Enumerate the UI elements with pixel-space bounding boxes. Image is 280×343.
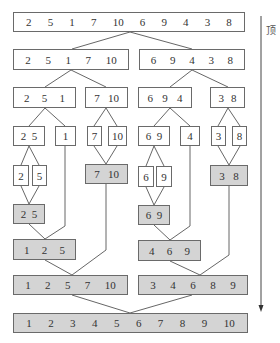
connector-line — [72, 32, 130, 49]
array-value: 2 — [45, 279, 51, 291]
connector-line — [192, 70, 228, 87]
array-value: 1 — [69, 16, 75, 28]
connector-line — [154, 225, 170, 240]
array-value: 10 — [224, 317, 235, 329]
array-value: 4 — [149, 245, 155, 257]
split-array-box: 8 — [232, 126, 247, 146]
array-value: 7 — [158, 317, 164, 329]
connector-line — [146, 187, 154, 205]
array-value: 6 — [148, 92, 154, 104]
array-value: 6 — [140, 16, 146, 28]
merged-array-box: 12345678910 — [13, 313, 248, 333]
split-array-box: 4 — [180, 126, 200, 146]
array-value: 5 — [114, 317, 120, 329]
connector-line — [154, 187, 164, 205]
array-value: 1 — [26, 317, 32, 329]
array-value: 1 — [63, 130, 69, 142]
connector-line — [21, 146, 29, 165]
array-value: 9 — [202, 317, 208, 329]
split-array-box: 69438 — [139, 49, 245, 70]
merged-array-box: 69 — [138, 205, 170, 225]
array-value: 10 — [112, 130, 123, 142]
split-array-box: 69 — [138, 126, 170, 146]
connector-line — [94, 146, 106, 164]
split-array-box: 2 — [13, 165, 29, 186]
connector-line — [106, 146, 117, 164]
merged-array-box: 25 — [13, 204, 45, 224]
connector-line — [29, 108, 45, 126]
array-value: 2 — [18, 170, 24, 182]
array-value: 8 — [210, 279, 216, 291]
array-value: 5 — [65, 279, 71, 291]
array-value: 4 — [183, 16, 189, 28]
array-value: 7 — [86, 54, 92, 66]
connector-line — [94, 108, 106, 126]
connector-line — [71, 70, 106, 87]
split-array-box: 38 — [210, 87, 245, 108]
connector-line — [45, 260, 72, 275]
array-value: 5 — [59, 244, 65, 256]
array-value: 7 — [94, 168, 100, 180]
array-value: 4 — [177, 92, 183, 104]
array-value: 2 — [42, 244, 48, 256]
array-value: 5 — [42, 92, 48, 104]
array-value: 10 — [113, 16, 124, 28]
array-value: 8 — [231, 92, 237, 104]
array-value: 6 — [146, 130, 152, 142]
array-value: 3 — [205, 16, 211, 28]
array-value: 1 — [65, 54, 71, 66]
array-value: 5 — [32, 130, 38, 142]
connector-line — [72, 295, 130, 313]
merged-array-box: 710 — [85, 164, 128, 184]
array-value: 2 — [21, 208, 27, 220]
connector-line — [29, 224, 45, 239]
merge-sort-diagram: 2517106943825171069438251710694382517106… — [0, 0, 280, 343]
array-value: 9 — [162, 92, 168, 104]
array-value: 9 — [161, 171, 167, 183]
array-value: 8 — [233, 170, 239, 182]
array-value: 6 — [143, 171, 149, 183]
split-array-box: 10 — [108, 126, 127, 146]
connector-line — [170, 70, 192, 87]
array-value: 5 — [37, 170, 43, 182]
merged-array-box: 469 — [138, 240, 201, 261]
connector-line — [106, 108, 117, 126]
connector-line — [200, 255, 229, 275]
split-array-box: 710 — [85, 87, 128, 108]
split-array-box: 25171069438 — [13, 12, 245, 32]
array-value: 3 — [219, 170, 225, 182]
connector-line — [154, 108, 170, 126]
connector-line — [228, 108, 240, 126]
array-value: 8 — [228, 54, 234, 66]
array-value: 6 — [136, 317, 142, 329]
array-value: 2 — [26, 16, 32, 28]
array-value: 4 — [92, 317, 98, 329]
connector-line — [45, 70, 71, 87]
connector-line — [146, 146, 154, 166]
array-value: 6 — [151, 54, 157, 66]
connector-line — [170, 226, 190, 240]
connector-line — [72, 250, 106, 275]
split-array-box: 1 — [55, 126, 76, 146]
array-value: 2 — [21, 130, 27, 142]
array-value: 9 — [157, 209, 163, 221]
array-value: 6 — [167, 245, 173, 257]
array-value: 5 — [45, 54, 51, 66]
arrow-down-icon — [259, 305, 264, 312]
array-value: 5 — [32, 208, 38, 220]
split-array-box: 251710 — [13, 49, 129, 70]
array-value: 2 — [48, 317, 54, 329]
connector-line — [29, 146, 39, 165]
array-value: 3 — [70, 317, 76, 329]
connector-line — [29, 186, 39, 204]
connector-line — [170, 108, 190, 126]
connector-line — [45, 226, 65, 239]
array-value: 7 — [94, 92, 100, 104]
array-value: 7 — [92, 130, 98, 142]
array-value: 10 — [105, 279, 116, 291]
array-value: 1 — [25, 279, 31, 291]
array-value: 8 — [237, 130, 243, 142]
split-array-box: 251 — [13, 87, 76, 108]
merged-array-box: 34689 — [138, 275, 248, 295]
split-array-box: 25 — [13, 126, 45, 146]
